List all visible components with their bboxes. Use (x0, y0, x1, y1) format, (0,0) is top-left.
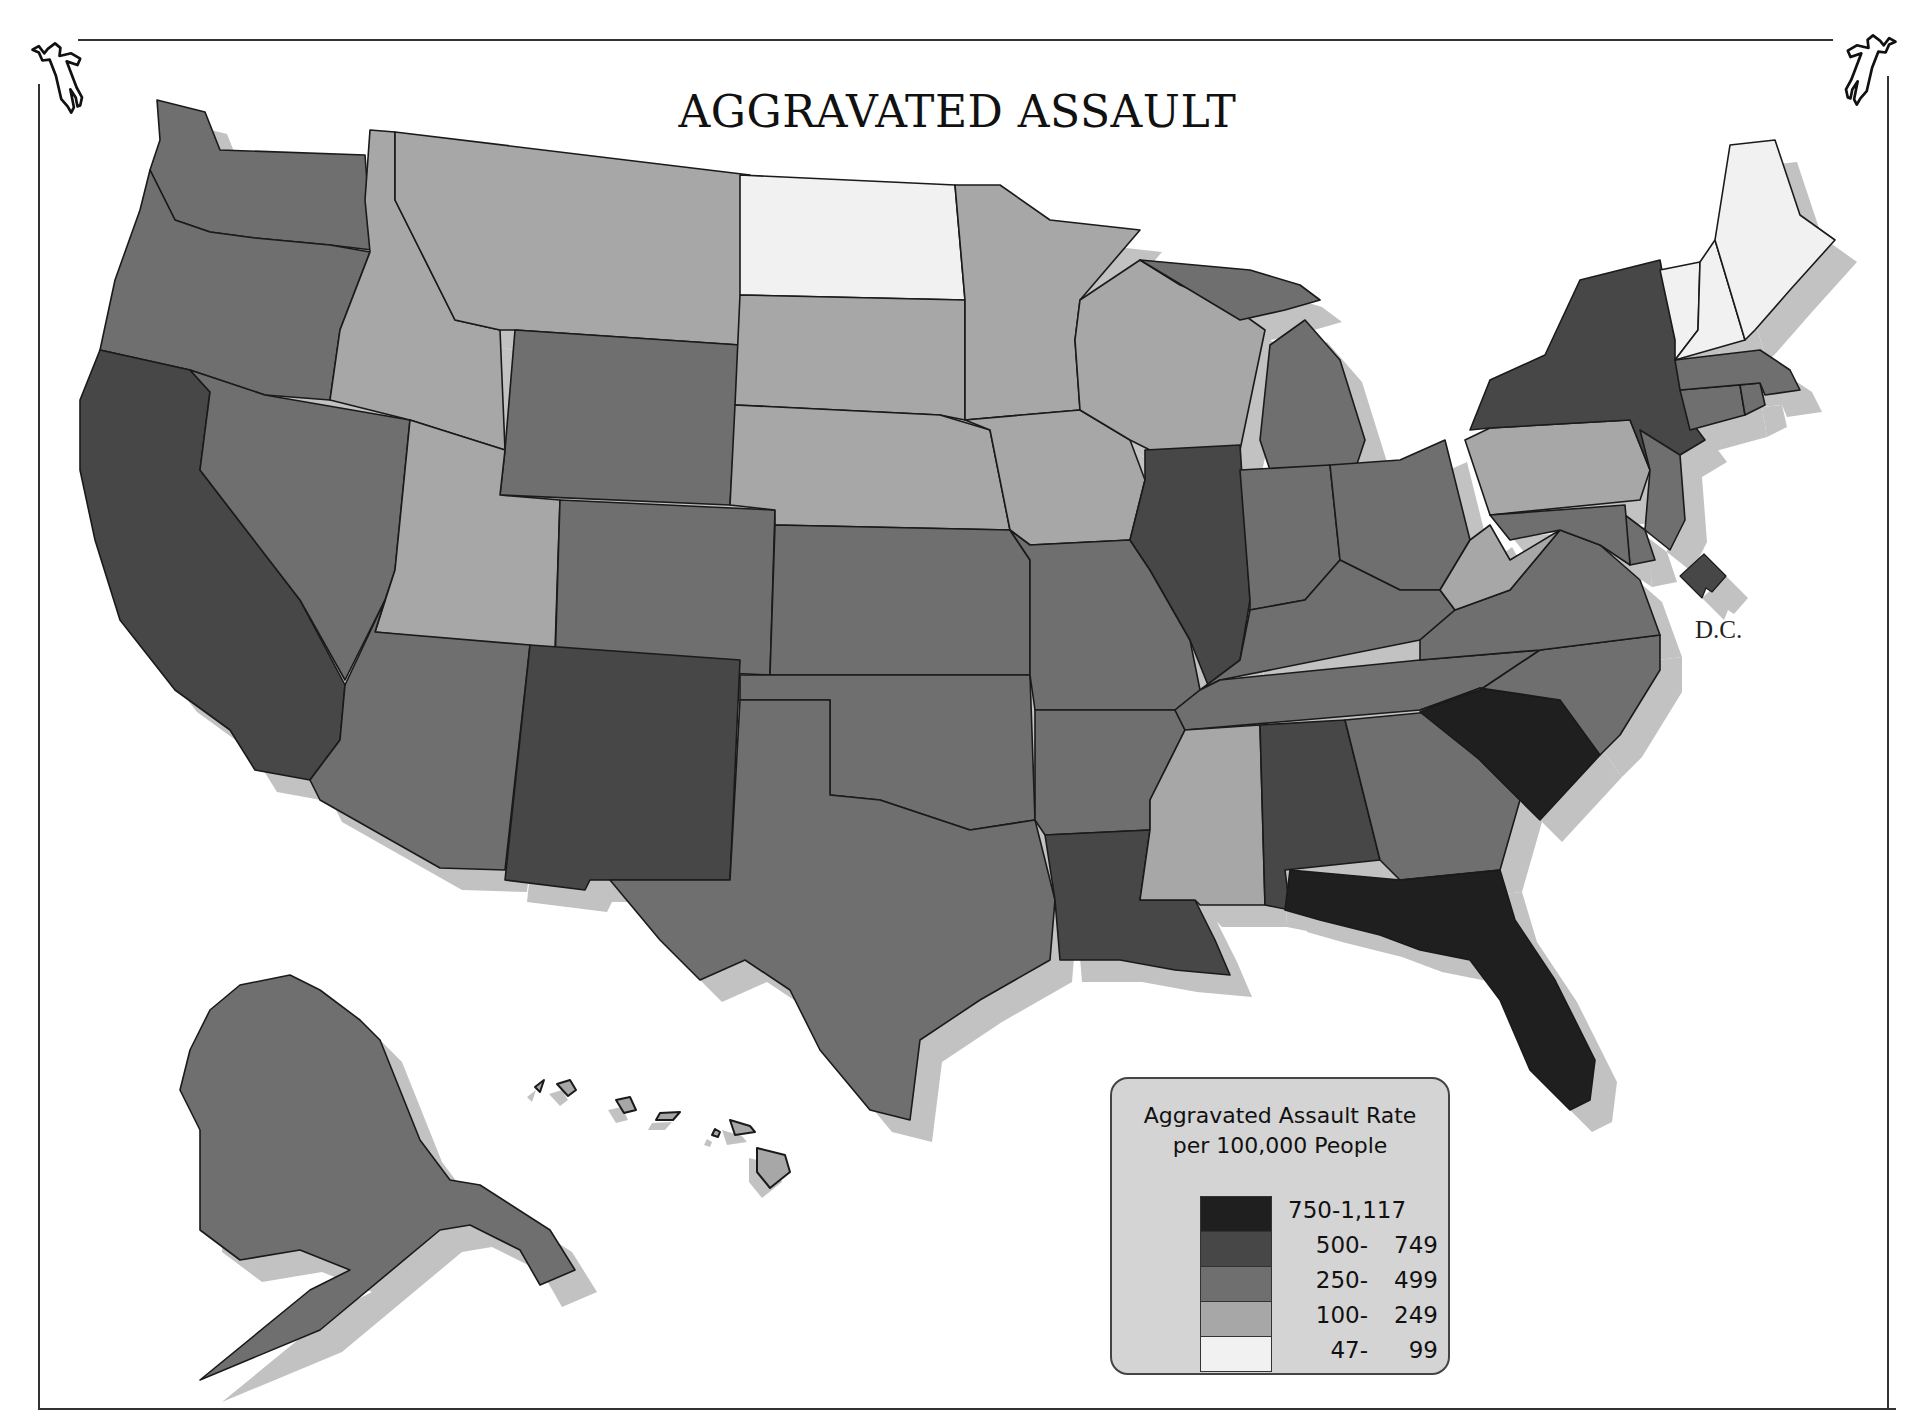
legend-label-47-99: 47-99 (1288, 1333, 1438, 1368)
legend-swatch-47-99 (1201, 1337, 1271, 1371)
state-shadow-hi-0 (527, 1090, 536, 1102)
legend-label-750-1117: 750-1,117 (1288, 1193, 1438, 1228)
legend-title: Aggravated Assault Rate per 100,000 Peop… (1112, 1101, 1448, 1161)
us-choropleth-map (0, 0, 1915, 1422)
legend-label-100-249: 100-249 (1288, 1298, 1438, 1333)
state-ks (770, 525, 1030, 675)
legend-swatch-500-749 (1201, 1232, 1271, 1267)
state-layer (80, 100, 1835, 1380)
state-hi-island-5 (730, 1120, 755, 1135)
state-hi-island-0 (535, 1080, 544, 1092)
state-fl (1285, 870, 1595, 1110)
legend-label-500-749: 500-749 (1288, 1228, 1438, 1263)
state-nm (505, 645, 740, 890)
legend-swatch-100-249 (1201, 1302, 1271, 1337)
state-hi-island-4 (712, 1129, 720, 1137)
legend-swatch-750-1117 (1201, 1197, 1271, 1232)
legend-title-line2: per 100,000 People (1112, 1131, 1448, 1161)
state-wy (500, 330, 740, 505)
legend-labels: 750-1,117 500-749 250-499 100-249 47-99 (1288, 1193, 1438, 1368)
state-nd (740, 175, 965, 300)
legend-swatches (1200, 1196, 1272, 1372)
state-sd (735, 295, 965, 420)
dc-label: D.C. (1695, 616, 1742, 644)
state-pa (1465, 420, 1650, 515)
legend-swatch-250-499 (1201, 1267, 1271, 1302)
state-shadow-hi-3 (648, 1122, 672, 1130)
legend-box: Aggravated Assault Rate per 100,000 Peop… (1110, 1077, 1450, 1375)
state-shadow-hi-4 (704, 1139, 712, 1147)
legend-title-line1: Aggravated Assault Rate (1112, 1101, 1448, 1131)
legend-label-250-499: 250-499 (1288, 1263, 1438, 1298)
state-hi-island-3 (656, 1112, 680, 1120)
